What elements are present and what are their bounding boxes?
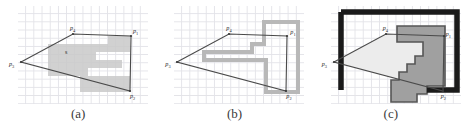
panel-a-caption: (a) <box>0 106 156 122</box>
panel-a-vertex-label-p3: p3 <box>9 61 14 70</box>
panel-b-plot-area: p3 p4 p1 p2 <box>174 6 304 104</box>
panel-c-vertex-label-p3: p3 <box>322 61 327 70</box>
panel-b-vertex-label-p3: p3 <box>165 61 170 70</box>
panel-a-plot-area: p3 p4 p1 p2 s <box>18 6 148 104</box>
panel-b-triangle <box>177 34 287 91</box>
panel-c-graphics <box>331 6 461 104</box>
panel-b-caption: (b) <box>156 106 312 122</box>
panel-c-vertex-label-p1: p1 <box>446 31 451 40</box>
panel-a-vertex-label-p4: p4 <box>70 25 75 34</box>
panel-a-graphics <box>18 6 148 104</box>
panel-c-plot-area: p3 p4 p1 p2 <box>331 6 461 104</box>
panel-c-vertex-label-p4: p4 <box>383 25 388 34</box>
panel-b-vertex-label-p1: p1 <box>290 29 295 38</box>
panel-a-vertex-label-p2: p2 <box>130 93 135 102</box>
panel-a: p3 p4 p1 p2 s (a) <box>0 0 156 134</box>
panel-b-vertex-dots <box>176 33 288 92</box>
panel-b: p3 p4 p1 p2 (b) <box>156 0 312 134</box>
panel-b-vertex-label-p4: p4 <box>226 25 231 34</box>
panel-c-vertex-label-p2: p2 <box>441 93 446 102</box>
panel-a-vertex-label-p1: p1 <box>133 28 138 37</box>
panel-c: p3 p4 p1 p2 (c) <box>313 0 469 134</box>
panel-a-interior-marker: s <box>65 49 67 55</box>
panel-b-graphics <box>174 6 304 104</box>
panel-c-caption: (c) <box>313 106 469 122</box>
light-gray-comb-region <box>48 36 130 92</box>
three-panel-figure: p3 p4 p1 p2 s (a) <box>0 0 469 134</box>
panel-b-vertex-label-p2: p2 <box>286 93 291 102</box>
